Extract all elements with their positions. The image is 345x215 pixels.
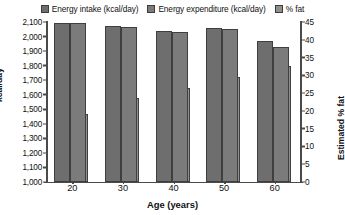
legend-swatch-percent-fat [275, 5, 283, 13]
x-axis-tick-label: 50 [209, 183, 239, 193]
bar-energy-expenditure [172, 32, 188, 182]
legend-label-energy-expenditure: Energy expenditure (kcal/day) [158, 4, 265, 14]
bar-group [53, 22, 91, 182]
y-axis-left-tick-label: 1,900 [0, 47, 42, 56]
x-axis-title: Age (years) [0, 199, 345, 210]
y-axis-right-tick-label: 0 [305, 178, 327, 187]
y-axis-right-tick-mark [301, 163, 305, 165]
bar-energy-intake [156, 31, 172, 182]
bar-energy-expenditure [121, 27, 137, 182]
x-axis-tick-label: 20 [57, 183, 87, 193]
x-axis-tick-label: 30 [108, 183, 138, 193]
plot-area [47, 22, 300, 182]
y-axis-left-tick-label: 1,700 [0, 76, 42, 85]
bar-energy-intake [206, 28, 222, 182]
y-axis-right-tick-label: 20 [305, 106, 327, 115]
bar-energy-intake [54, 23, 70, 182]
y-axis-right-tick-label: 15 [305, 124, 327, 133]
x-axis-tick-label: 60 [260, 183, 290, 193]
y-axis-right-title: Estimated % fat [336, 96, 345, 160]
y-axis-right-tick-mark [301, 57, 305, 59]
y-axis-right-tick-label: 10 [305, 142, 327, 151]
y-axis-right-tick-mark [301, 146, 305, 148]
bar-group [256, 22, 294, 182]
bar-group [155, 22, 193, 182]
y-axis-right-tick-label: 25 [305, 89, 327, 98]
y-axis-left-title: kcal/day [0, 68, 4, 102]
legend-label-energy-intake: Energy intake (kcal/day) [52, 4, 139, 14]
bar-energy-intake [257, 41, 273, 182]
y-axis-right-tick-mark [301, 128, 305, 130]
legend-swatch-energy-expenditure [147, 5, 155, 13]
y-axis-right-tick-mark [301, 75, 305, 77]
y-axis-left-tick-label: 2,000 [0, 32, 42, 41]
y-axis-left-tick-label: 1,100 [0, 163, 42, 172]
legend-item-energy-expenditure: Energy expenditure (kcal/day) [147, 4, 265, 14]
bar-energy-expenditure [273, 47, 289, 182]
y-axis-right-tick-label: 40 [305, 35, 327, 44]
y-axis-right-tick-mark [301, 21, 305, 23]
bar-group [104, 22, 142, 182]
bar-energy-intake [105, 26, 121, 182]
y-axis-left-tick-label: 1,500 [0, 105, 42, 114]
y-axis-left-tick-label: 1,800 [0, 61, 42, 70]
y-axis-left-tick-label: 1,200 [0, 148, 42, 157]
legend-item-percent-fat: % fat [275, 4, 304, 14]
y-axis-right-tick-mark [301, 181, 305, 183]
y-axis-right-line [300, 21, 302, 183]
bar-group [205, 22, 243, 182]
y-axis-left-tick-label: 1,400 [0, 119, 42, 128]
legend-label-percent-fat: % fat [286, 4, 304, 14]
legend-swatch-energy-intake [41, 5, 49, 13]
y-axis-left-tick-label: 2,100 [0, 18, 42, 27]
y-axis-right-tick-label: 45 [305, 18, 327, 27]
y-axis-right-tick-mark [301, 110, 305, 112]
chart-legend: Energy intake (kcal/day) Energy expendit… [0, 1, 345, 17]
y-axis-left-tick-label: 1,000 [0, 178, 42, 187]
energy-balance-chart: Energy intake (kcal/day) Energy expendit… [0, 0, 345, 215]
y-axis-right-tick-label: 30 [305, 71, 327, 80]
y-axis-right-tick-label: 5 [305, 160, 327, 169]
y-axis-right-tick-label: 35 [305, 53, 327, 62]
x-axis-tick-label: 40 [159, 183, 189, 193]
y-axis-right-tick-mark [301, 39, 305, 41]
legend-item-energy-intake: Energy intake (kcal/day) [41, 4, 139, 14]
y-axis-left-tick-label: 1,600 [0, 90, 42, 99]
bar-energy-expenditure [222, 29, 238, 182]
y-axis-right-tick-mark [301, 92, 305, 94]
bar-energy-expenditure [70, 23, 86, 182]
y-axis-left-tick-label: 1,300 [0, 134, 42, 143]
